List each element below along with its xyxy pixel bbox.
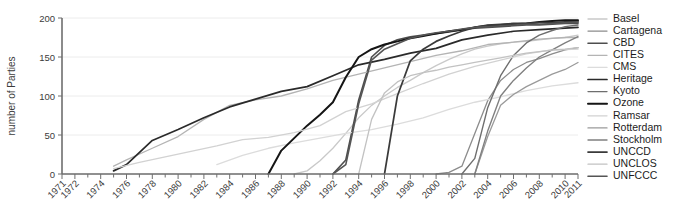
x-tick-label-1984: 1984 — [213, 178, 236, 201]
x-tick-label-1998: 1998 — [393, 178, 416, 201]
legend-label-ramsar: Ramsar — [613, 109, 650, 121]
legend-item-cms[interactable]: CMS — [588, 60, 636, 72]
legend-item-kyoto[interactable]: Kyoto — [588, 84, 640, 96]
legend-label-unfccc: UNFCCC — [613, 169, 658, 181]
x-tick-label-1986: 1986 — [239, 178, 262, 201]
legend-item-cbd[interactable]: CBD — [588, 36, 636, 48]
x-tick-label-1980: 1980 — [161, 178, 184, 201]
legend-label-cites: CITES — [613, 48, 644, 60]
legend-item-unfccc[interactable]: UNFCCC — [588, 169, 658, 181]
legend-label-cartagena: Cartagena — [613, 24, 662, 36]
y-tick-label-50: 50 — [44, 130, 55, 141]
x-axis-ticks: 1971197219741976197819801982198419861988… — [45, 174, 584, 200]
legend-label-basel: Basel — [613, 12, 639, 24]
legend-label-ozone: Ozone — [613, 96, 644, 108]
y-tick-label-0: 0 — [50, 169, 55, 180]
x-tick-label-2000: 2000 — [419, 178, 442, 201]
legend-item-cartagena[interactable]: Cartagena — [588, 24, 662, 36]
x-tick-label-1988: 1988 — [264, 178, 287, 201]
legend-item-basel[interactable]: Basel — [588, 12, 639, 24]
legend-item-unccd[interactable]: UNCCD — [588, 145, 651, 157]
y-tick-label-100: 100 — [39, 91, 55, 102]
legend-item-unclos[interactable]: UNCLOS — [588, 157, 657, 169]
legend-item-rotterdam[interactable]: Rotterdam — [588, 121, 662, 133]
y-tick-label-200: 200 — [39, 13, 55, 24]
legend-label-unclos: UNCLOS — [613, 157, 657, 169]
legend-label-cms: CMS — [613, 60, 636, 72]
legend-item-ramsar[interactable]: Ramsar — [588, 109, 650, 121]
legend-item-stockholm[interactable]: Stockholm — [588, 133, 662, 145]
series-line-cbd — [333, 23, 578, 174]
x-tick-label-1976: 1976 — [110, 178, 133, 201]
x-tick-label-1974: 1974 — [84, 178, 107, 201]
series-line-ozone — [268, 20, 578, 174]
x-tick-label-2004: 2004 — [471, 178, 494, 201]
x-tick-label-1992: 1992 — [316, 178, 339, 201]
series-line-kyoto — [462, 25, 578, 174]
legend-label-cbd: CBD — [613, 36, 636, 48]
series-lines — [114, 20, 578, 174]
x-tick-label-1990: 1990 — [290, 178, 313, 201]
legend-item-cites[interactable]: CITES — [588, 48, 644, 60]
legend-label-stockholm: Stockholm — [613, 133, 662, 145]
series-line-rotterdam — [475, 62, 578, 174]
legend-label-rotterdam: Rotterdam — [613, 121, 662, 133]
x-tick-label-1994: 1994 — [342, 178, 365, 201]
y-axis-title: number of Parties — [6, 57, 17, 136]
legend: BaselCartagenaCBDCITESCMSHeritageKyotoOz… — [588, 12, 662, 181]
x-tick-label-1982: 1982 — [187, 178, 210, 201]
x-tick-label-2006: 2006 — [497, 178, 520, 201]
series-line-ramsar — [114, 49, 578, 168]
line-chart: 1971197219741976197819801982198419861988… — [0, 0, 677, 220]
chart-container: 1971197219741976197819801982198419861988… — [0, 0, 677, 220]
x-tick-label-1996: 1996 — [368, 178, 391, 201]
legend-label-heritage: Heritage — [613, 72, 653, 84]
legend-item-heritage[interactable]: Heritage — [588, 72, 653, 84]
legend-item-ozone[interactable]: Ozone — [588, 96, 644, 108]
series-line-unfccc — [333, 22, 578, 174]
legend-label-unccd: UNCCD — [613, 145, 651, 157]
x-tick-label-2008: 2008 — [522, 178, 545, 201]
x-tick-label-2002: 2002 — [445, 178, 468, 201]
y-axis-title-text: number of Parties — [6, 57, 17, 136]
legend-label-kyoto: Kyoto — [613, 84, 640, 96]
x-tick-label-1978: 1978 — [135, 178, 158, 201]
y-tick-label-150: 150 — [39, 52, 55, 63]
y-axis-ticks: 050100150200 — [39, 13, 62, 180]
